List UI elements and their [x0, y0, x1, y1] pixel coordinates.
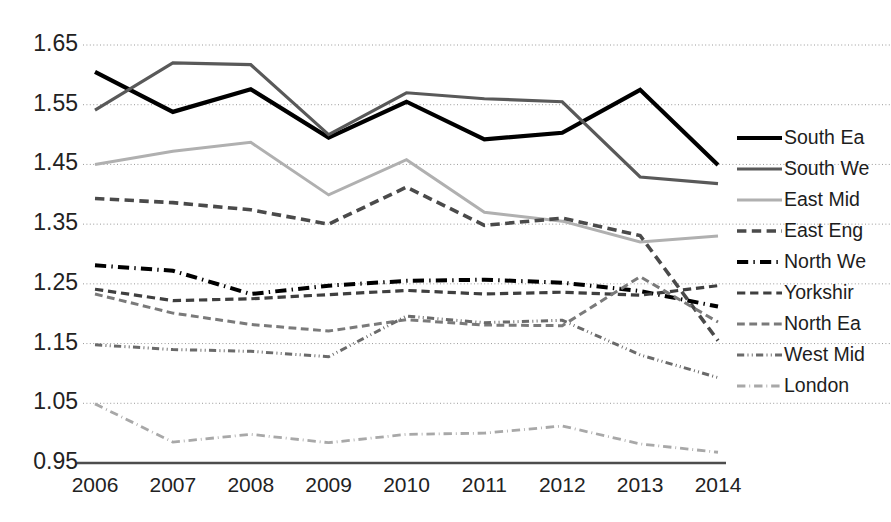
series-line-london [95, 404, 718, 452]
line-dashed-gray-icon [736, 284, 783, 302]
line-solid-gray-icon [736, 160, 783, 178]
line-chart: 0.951.051.151.251.351.451.551.65 2006200… [0, 0, 891, 522]
line-solid-lightgray-icon [736, 191, 783, 209]
line-dashdot-black-icon [736, 253, 783, 271]
y-axis-tick-label: 1.25 [8, 269, 78, 296]
line-dashdot-lightgray-icon [736, 377, 783, 395]
legend-item-label: Yorkshir [783, 283, 854, 303]
legend-item-label: East Eng [783, 221, 863, 241]
series-line-south-we [95, 63, 718, 184]
legend-item-east-eng[interactable]: East Eng [736, 215, 888, 246]
legend-item-west-mid[interactable]: West Mid [736, 339, 888, 370]
x-axis-tick-label: 2008 [216, 473, 286, 497]
legend-item-label: East Mid [783, 190, 860, 210]
x-axis-tick-label: 2010 [372, 473, 442, 497]
legend-item-yorkshir[interactable]: Yorkshir [736, 277, 888, 308]
legend-item-label: North We [783, 252, 866, 272]
x-axis-tick-label: 2011 [449, 473, 519, 497]
series-line-west-mid [95, 316, 718, 378]
x-axis-tick-label: 2009 [294, 473, 364, 497]
line-solid-thick-black-icon [736, 129, 783, 147]
legend-item-south-ea[interactable]: South Ea [736, 122, 888, 153]
y-axis-tick-label: 1.55 [8, 90, 78, 117]
legend-item-east-mid[interactable]: East Mid [736, 184, 888, 215]
series-line-south-ea [95, 72, 718, 165]
legend-item-label: London [783, 376, 849, 396]
legend-item-label: West Mid [783, 345, 865, 365]
y-axis-tick-label: 1.35 [8, 209, 78, 236]
x-axis-tick-label: 2007 [138, 473, 208, 497]
legend-item-north-ea[interactable]: North Ea [736, 308, 888, 339]
y-axis-tick-label: 1.65 [8, 30, 78, 57]
x-axis-tick-label: 2012 [527, 473, 597, 497]
y-axis-tick-label: 1.05 [8, 388, 78, 415]
series-line-east-eng [95, 187, 718, 340]
legend-item-label: North Ea [783, 314, 861, 334]
legend-item-south-we[interactable]: South We [736, 153, 888, 184]
line-dashdotdot-gray-icon [736, 346, 783, 364]
y-axis-tick-label: 1.45 [8, 149, 78, 176]
legend-item-north-we[interactable]: North We [736, 246, 888, 277]
line-dashed-darkgray-icon [736, 222, 783, 240]
chart-legend: South EaSouth WeEast MidEast EngNorth We… [736, 122, 888, 401]
x-axis-tick-label: 2014 [683, 473, 753, 497]
series-lines [95, 63, 718, 452]
x-axis-tick-label: 2013 [605, 473, 675, 497]
x-axis-tick-label: 2006 [60, 473, 130, 497]
legend-item-london[interactable]: London [736, 370, 888, 401]
legend-item-label: South Ea [783, 128, 864, 148]
series-line-north-ea [95, 277, 718, 331]
legend-item-label: South We [783, 159, 869, 179]
y-axis-tick-label: 1.15 [8, 329, 78, 356]
line-dashed-midgray-icon [736, 315, 783, 333]
series-line-east-mid [95, 142, 718, 242]
y-axis-tick-label: 0.95 [8, 448, 78, 475]
